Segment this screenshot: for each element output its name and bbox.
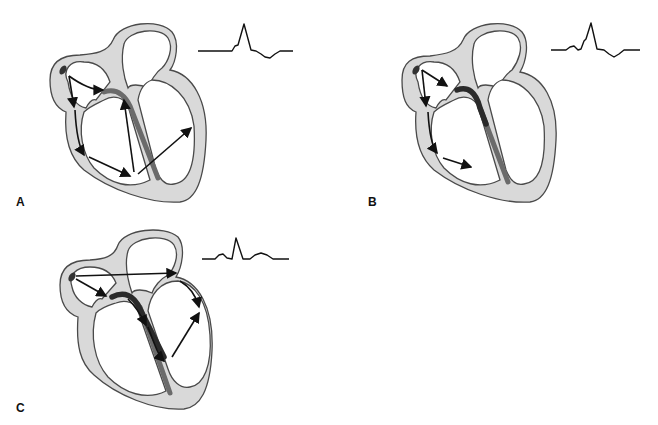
heart-diagram-b — [330, 0, 658, 215]
heart-diagram-a — [0, 0, 330, 215]
panel-a: A — [0, 0, 330, 215]
ecg-trace-c — [202, 238, 289, 259]
panel-label-b: B — [368, 195, 377, 209]
panel-b: B — [330, 0, 658, 215]
ecg-trace-a — [198, 24, 293, 58]
panel-label-a: A — [16, 195, 25, 209]
ecg-trace-b — [551, 23, 640, 57]
panel-c: C — [0, 215, 330, 425]
heart-diagram-c — [0, 215, 330, 425]
panel-label-c: C — [16, 401, 25, 415]
